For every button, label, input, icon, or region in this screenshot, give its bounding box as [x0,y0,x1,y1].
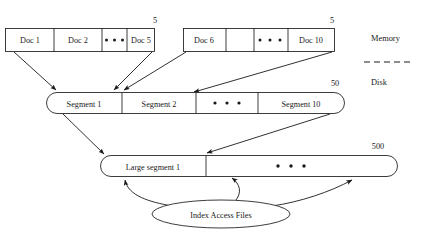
large-segment-row: Large segment 1 500 [101,142,398,177]
segment-row-count: 50 [331,79,339,88]
arrow-index-to-large-segment-middle [232,178,239,200]
arrow-doc10-to-segment-dots [194,52,332,92]
memory-cell-label: Doc 2 [68,36,88,45]
arrow-index-to-large-segment-left [125,180,172,206]
large-segment-row-count: 500 [372,142,384,151]
index-access-files-node: Index Access Files [152,200,290,228]
disk-side-label: Disk [371,78,388,87]
memory-group-2: Doc 6 Doc 10 5 [184,16,335,52]
large-segment-cell-label: Large segment 1 [126,163,180,172]
arrow-doc1-to-segment1 [14,52,56,90]
segment-cell-label: Segment 10 [282,100,321,109]
index-access-files-label: Index Access Files [190,211,251,220]
segment-cell-label: Segment 2 [142,100,177,109]
memory-cell-label: Doc 1 [20,36,40,45]
memory-cell-label: Doc 10 [299,36,323,45]
memory-cell-label: Doc 5 [131,36,151,45]
arrow-segment10-to-large-segment [207,114,330,153]
memory-group-1-count: 5 [153,16,157,25]
segment-cell-label: Segment 1 [67,100,102,109]
memory-group-2-count: 5 [330,16,334,25]
memory-group-1: Doc 1 Doc 2 Doc 5 5 [6,16,158,52]
diagram-svg: Doc 1 Doc 2 Doc 5 5 Doc 6 Doc 10 [0,0,433,232]
memory-side-label: Memory [371,34,401,43]
arrow-index-to-large-segment-right [272,180,352,206]
memory-cell-label: Doc 6 [194,36,214,45]
diagram-canvas: Doc 1 Doc 2 Doc 5 5 Doc 6 Doc 10 [0,0,433,232]
arrow-segment1-to-large-segment [63,114,104,154]
segment-row: Segment 1 Segment 2 Segment 10 50 [47,79,345,114]
